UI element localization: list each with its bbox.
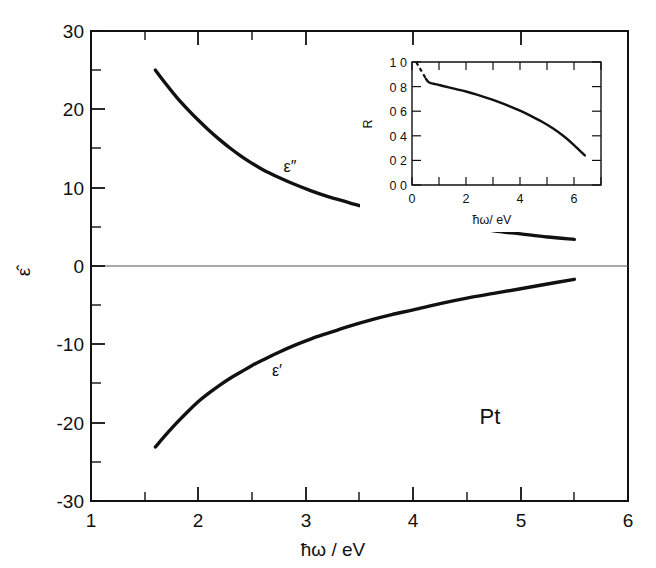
inset-x-tick-label: 4	[517, 192, 524, 206]
inset-x-axis-title: ħω/ eV	[473, 213, 513, 227]
inset-y-tick-label: 0 0	[390, 179, 407, 193]
y-tick-label: 20	[63, 99, 84, 120]
x-tick-label: 1	[86, 510, 97, 531]
inset-y-tick-label: 0 4	[390, 130, 407, 144]
y-tick-label: 0	[73, 256, 84, 277]
main-x-axis-title: ħω / eV	[301, 539, 366, 560]
plot-svg: 30 20 10 0 -10 -20 -30 ε̂	[0, 0, 656, 568]
x-tick-label: 4	[408, 510, 419, 531]
inset-x-tick-label: 0	[409, 192, 416, 206]
figure-container: 30 20 10 0 -10 -20 -30 ε̂	[0, 0, 656, 568]
main-y-axis-title: ε̂	[13, 264, 34, 276]
main-y-axis-ticks	[91, 31, 105, 501]
x-tick-label: 6	[623, 510, 634, 531]
inset-x-tick-label: 2	[463, 192, 470, 206]
annotation-epsilon-imag: ε″	[284, 158, 297, 175]
y-tick-label: 10	[63, 178, 84, 199]
x-tick-label: 3	[301, 510, 312, 531]
curve-epsilon-real	[155, 279, 574, 447]
main-x-tick-labels: 1 2 3 4 5 6	[86, 510, 634, 531]
y-tick-label: -10	[57, 334, 84, 355]
inset-x-tick-label: 6	[571, 192, 578, 206]
annotation-epsilon-real: ε′	[272, 362, 282, 379]
inset-y-tick-label: 0 6	[390, 105, 407, 119]
sample-label: Pt	[480, 404, 501, 429]
x-axis-title-text: ħω / eV	[301, 539, 366, 560]
inset-y-tick-label: 0 8	[390, 81, 407, 95]
inset-y-tick-label: 0 2	[390, 154, 407, 168]
inset-y-tick-label: 1 0	[390, 56, 407, 70]
y-tick-label: 30	[63, 21, 84, 42]
y-tick-label: -30	[57, 491, 84, 512]
x-tick-label: 5	[516, 510, 527, 531]
inset-plot: 1 0 0 8 0 6 0 4 0 2 0 0 R	[360, 52, 610, 232]
y-tick-label: -20	[57, 413, 84, 434]
main-y-tick-labels: 30 20 10 0 -10 -20 -30	[57, 21, 84, 512]
inset-y-axis-title: R	[361, 119, 375, 128]
y-axis-title-text: ε̂	[13, 264, 34, 276]
x-tick-label: 2	[193, 510, 204, 531]
